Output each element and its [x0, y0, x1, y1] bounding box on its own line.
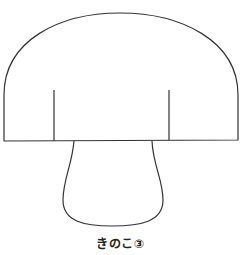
figure-caption: きのこ③: [0, 234, 241, 251]
mushroom-stem-outline: [63, 141, 163, 226]
mushroom-cap-outline: [4, 13, 238, 141]
mushroom-drawing: [0, 0, 241, 255]
